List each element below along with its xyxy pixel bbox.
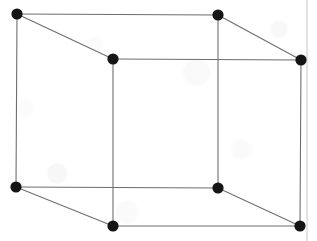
edge-front-right-vertical <box>300 60 301 226</box>
edge-front-top <box>113 59 301 60</box>
edge-diag-top-right <box>218 15 301 60</box>
vertex-front-top-left <box>107 53 118 64</box>
vertex-back-bottom-left <box>10 181 21 192</box>
edge-diag-bottom-left <box>16 187 113 226</box>
vertex-front-top-right <box>295 54 306 65</box>
cube-edge-layer <box>16 14 301 226</box>
cube-figure <box>0 0 317 241</box>
edge-diag-top-left <box>17 14 113 59</box>
edge-back-top <box>17 14 218 15</box>
cube-diagram-svg <box>0 0 317 241</box>
vertex-back-top-left <box>11 8 22 19</box>
edge-back-left-vertical <box>16 14 17 187</box>
vertex-back-top-right <box>212 9 223 20</box>
edge-diag-bottom-right <box>218 188 300 226</box>
cube-vertex-layer <box>10 8 306 231</box>
vertex-back-bottom-right <box>212 182 223 193</box>
vertex-front-bottom-right <box>294 220 305 231</box>
vertex-front-bottom-left <box>107 220 118 231</box>
edge-back-bottom <box>16 187 218 188</box>
